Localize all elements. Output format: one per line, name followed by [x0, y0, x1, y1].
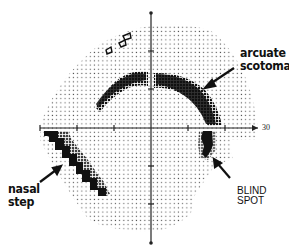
visual-field-diagram: 30 arcuate scotoma nasal step BLIND SPOT — [0, 0, 289, 250]
nasal-label-line2: step — [8, 195, 40, 208]
visual-field-plot — [0, 0, 289, 250]
blind-spot-label: BLIND SPOT — [237, 186, 266, 206]
arcuate-label-line2: scotoma — [240, 59, 289, 72]
arcuate-scotoma-label: arcuate scotoma — [240, 46, 289, 72]
nasal-step-label: nasal step — [8, 182, 40, 208]
x-axis-end-label: 30 — [262, 123, 270, 132]
blind-label-line2: SPOT — [237, 196, 266, 206]
